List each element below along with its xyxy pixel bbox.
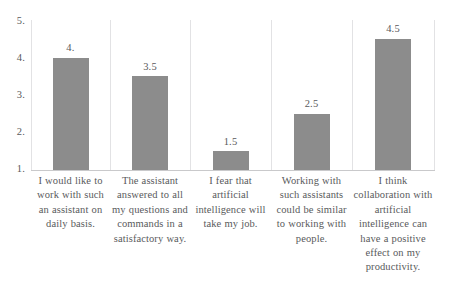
bar-group: 4.5 bbox=[352, 20, 434, 170]
y-axis-tick-5: 5. bbox=[17, 16, 25, 27]
category-label-5: I think collaboration with artificial in… bbox=[352, 174, 434, 275]
bar-group: 4. bbox=[31, 20, 110, 170]
bar[interactable] bbox=[213, 151, 249, 170]
bar[interactable] bbox=[53, 58, 89, 171]
bar[interactable] bbox=[375, 39, 411, 170]
bar[interactable] bbox=[132, 76, 168, 170]
bar[interactable] bbox=[294, 114, 330, 170]
gridline-vertical bbox=[434, 20, 435, 170]
y-axis-tick-1: 1. bbox=[17, 164, 25, 175]
category-axis-labels: I would like to work with such an assist… bbox=[31, 174, 435, 294]
plot-area: 4. 3.5 1.5 2.5 4.5 bbox=[31, 20, 435, 170]
bar-value-label: 4.5 bbox=[386, 24, 400, 35]
category-axis-line bbox=[31, 170, 435, 171]
category-label-1: I would like to work with such an assist… bbox=[31, 174, 110, 232]
bar-value-label: 3.5 bbox=[143, 62, 157, 73]
y-axis-tick-3: 3. bbox=[17, 90, 25, 101]
bar-group: 2.5 bbox=[271, 20, 352, 170]
bar-group: 1.5 bbox=[190, 20, 271, 170]
bar-group: 3.5 bbox=[110, 20, 190, 170]
bar-value-label: 1.5 bbox=[224, 137, 238, 148]
y-axis-tick-4: 4. bbox=[17, 53, 25, 64]
bar-value-label: 2.5 bbox=[305, 99, 319, 110]
category-label-3: I fear that artificial intelligence will… bbox=[190, 174, 271, 232]
category-label-2: The assistant answered to all my questio… bbox=[110, 174, 190, 246]
y-axis: 5. 4. 3. 2. 1. bbox=[0, 0, 31, 294]
y-axis-tick-2: 2. bbox=[17, 127, 25, 138]
category-label-4: Working with such assistants could be si… bbox=[271, 174, 352, 246]
bar-chart-screenshot: 5. 4. 3. 2. 1. 4. 3.5 1.5 2.5 bbox=[0, 0, 450, 294]
bar-value-label: 4. bbox=[66, 43, 74, 54]
